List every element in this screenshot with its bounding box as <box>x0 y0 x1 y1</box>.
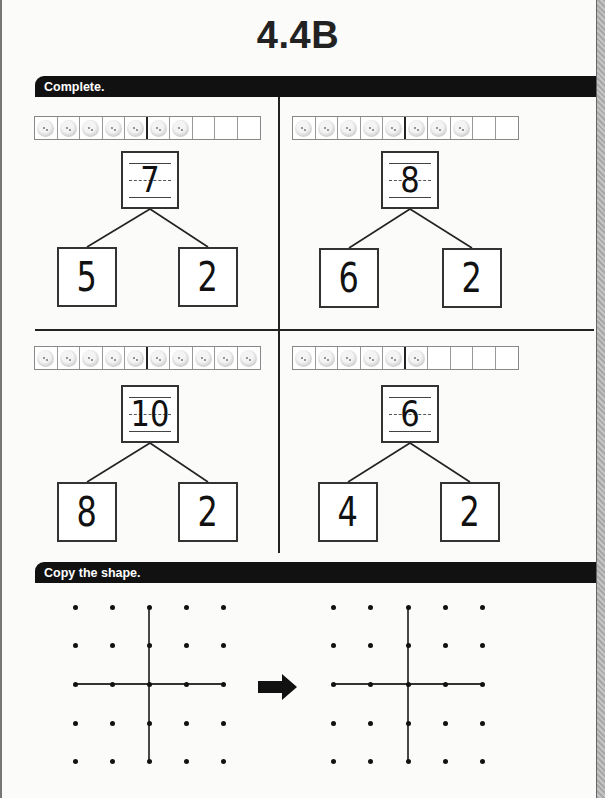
grid-dot <box>331 643 336 648</box>
grid-dot <box>443 759 448 764</box>
grid-dot <box>406 605 411 610</box>
grid-dot <box>480 643 485 648</box>
grid-dot <box>406 759 411 764</box>
grid-dot <box>331 721 336 726</box>
grid-dot <box>331 605 336 610</box>
grid-dot <box>480 759 485 764</box>
grid-dot <box>443 605 448 610</box>
grid-dot <box>443 643 448 648</box>
grid-dot <box>480 682 485 687</box>
grid-dot <box>443 682 448 687</box>
grid-dot <box>480 605 485 610</box>
grid-dot <box>331 682 336 687</box>
right-arrow-icon <box>258 674 298 700</box>
grid-dot <box>368 682 373 687</box>
grid-dot <box>368 759 373 764</box>
grid-dot <box>368 643 373 648</box>
grid-dot <box>480 721 485 726</box>
grid-dot <box>406 721 411 726</box>
grid-dot <box>368 721 373 726</box>
grid-dot <box>406 682 411 687</box>
grid-dot <box>406 643 411 648</box>
grid-dot <box>368 605 373 610</box>
grid-dot <box>331 759 336 764</box>
grid-dot <box>443 721 448 726</box>
